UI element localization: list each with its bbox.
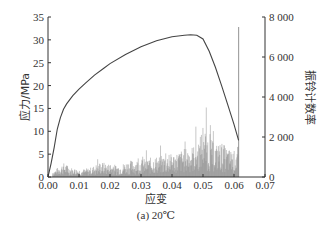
y-tick-label: 5: [39, 148, 45, 160]
left-y-axis-title: 应力/MPa: [18, 73, 32, 121]
y2-tick-label: 2 000: [269, 131, 294, 143]
right-y-ticks: 02 0004 0006 0008 000: [262, 11, 294, 183]
y-tick-label: 25: [33, 57, 45, 69]
ringing-count-bars: [53, 107, 239, 177]
y2-tick-label: 0: [269, 171, 275, 183]
x-tick-label: 0.06: [224, 179, 244, 191]
y-tick-label: 15: [33, 102, 45, 114]
y2-tick-label: 4 000: [269, 91, 294, 103]
right-y-axis-title: 振铃计数率: [303, 70, 317, 125]
x-tick-label: 0.05: [193, 179, 213, 191]
x-tick-label: 0.03: [131, 179, 151, 191]
stress-strain-ae-chart: 0.000.010.020.030.040.050.060.07 0510152…: [0, 0, 322, 232]
y-tick-label: 10: [33, 125, 45, 137]
x-tick-label: 0.01: [69, 179, 88, 191]
y2-tick-label: 6 000: [269, 51, 294, 63]
y-tick-label: 20: [33, 80, 45, 92]
x-tick-label: 0.02: [100, 179, 119, 191]
y-tick-label: 35: [33, 11, 45, 23]
y2-tick-label: 8 000: [269, 11, 294, 23]
x-axis-title: 应变: [145, 192, 167, 206]
y-tick-label: 30: [33, 34, 45, 46]
x-tick-label: 0.04: [162, 179, 182, 191]
figure-caption: (a) 20℃: [137, 209, 175, 222]
y-tick-label: 0: [39, 171, 45, 183]
